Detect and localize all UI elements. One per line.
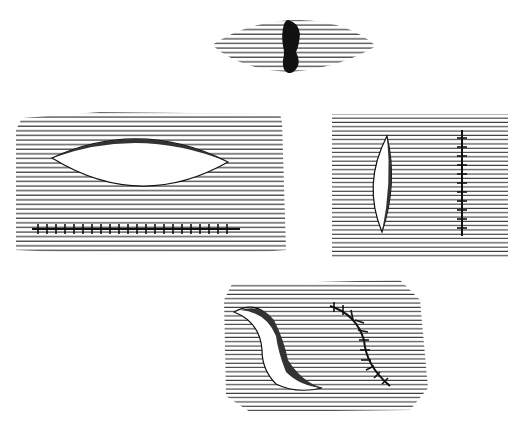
lesion-mark xyxy=(282,20,300,73)
panel-vertical-excision xyxy=(332,114,508,258)
panel-s-shaped-excision xyxy=(224,280,428,412)
panel-horizontal-excision xyxy=(16,112,286,254)
surgical-excision-diagram xyxy=(0,0,524,424)
skin-hatching xyxy=(224,280,428,412)
skin-hatching xyxy=(332,114,508,258)
panel-lesion xyxy=(212,20,376,73)
